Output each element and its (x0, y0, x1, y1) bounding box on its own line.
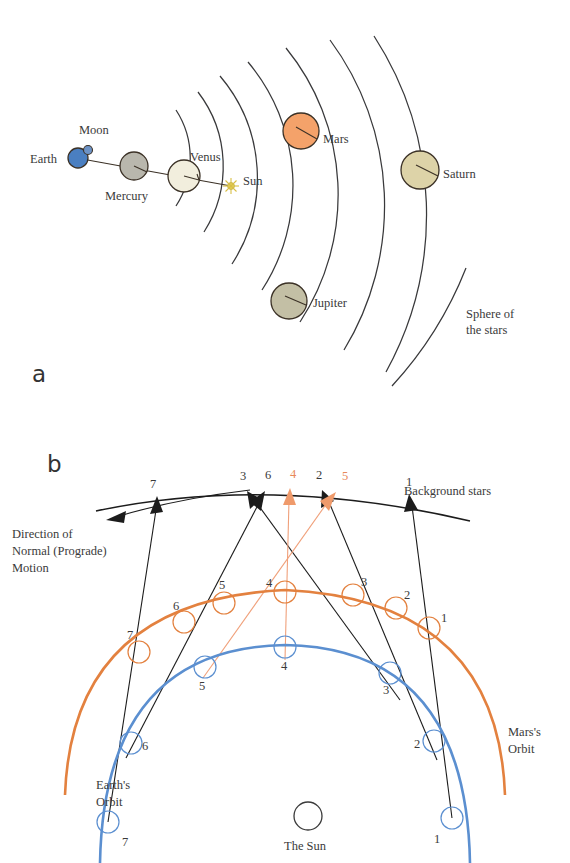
sky-mark-2: 2 (316, 468, 322, 482)
label-saturn: Saturn (443, 167, 476, 181)
label-jupiter: Jupiter (313, 296, 348, 310)
mars-orbit-arc (65, 590, 505, 795)
panel-letter-a: a (32, 361, 46, 387)
earth-orbit-arc (100, 645, 470, 863)
sky-marks-group: 7 3 6 4 2 5 1 (150, 467, 412, 491)
sightline-7 (108, 496, 163, 822)
direction-label-line3: Motion (12, 561, 50, 575)
sky-mark-7: 7 (150, 477, 156, 491)
earth-position-label-7: 7 (122, 835, 128, 849)
earth-position-label-4: 4 (281, 659, 288, 673)
label-earth: Earth (30, 152, 58, 166)
earth-position-label-2: 2 (414, 737, 420, 751)
mars-position-7 (128, 641, 150, 663)
mars-position-label-3: 3 (361, 575, 367, 589)
sightline-6 (126, 491, 265, 758)
panel-a: Venus Mercury Earth Moon Sun Mars Jupit (30, 36, 515, 387)
label-sphere-of-stars-line1: Sphere of (466, 307, 515, 321)
orbit-arc-saturn (374, 36, 427, 372)
sky-mark-6: 6 (265, 468, 271, 482)
body-jupiter (271, 283, 307, 319)
sightlines-group (108, 488, 452, 822)
sightline-4 (283, 488, 296, 660)
mars-position-label-1: 1 (441, 611, 447, 625)
direction-label-line2: Normal (Prograde) (12, 544, 107, 558)
earth-position-label-1: 1 (434, 832, 440, 846)
mars-orbit-label-line2: Orbit (508, 742, 535, 756)
label-sun: Sun (243, 174, 263, 188)
sun-circle-panel-b (294, 802, 322, 830)
panel-letter-b: b (47, 451, 62, 477)
earth-positions-group: 1 2 3 4 5 6 7 (97, 636, 463, 849)
mars-position-4 (274, 581, 296, 603)
mars-position-label-4: 4 (266, 576, 273, 590)
label-venus: Venus (190, 150, 221, 164)
body-saturn (401, 151, 439, 189)
orbit-arc-sphere-of-stars (392, 268, 466, 386)
earth-orbit-label-line1: Earth's (96, 778, 130, 792)
astronomy-figure: Venus Mercury Earth Moon Sun Mars Jupit (0, 0, 570, 863)
sightline-1 (404, 494, 452, 818)
orbit-arc-venus (220, 76, 257, 264)
earth-orbit-label-line2: Orbit (96, 795, 123, 809)
body-mars (283, 113, 319, 149)
label-mars: Mars (323, 132, 349, 146)
earth-position-label-5: 5 (199, 679, 205, 693)
mars-position-label-6: 6 (173, 599, 179, 613)
earth-position-label-3: 3 (383, 683, 389, 697)
orbit-arcs-group (176, 36, 466, 386)
mars-position-label-2: 2 (404, 588, 410, 602)
panel-b: b Direction of Normal (Prograde) Motion … (12, 451, 541, 863)
mars-position-label-7: 7 (127, 628, 133, 642)
mars-position-6 (173, 611, 195, 633)
sky-mark-4: 4 (290, 467, 297, 481)
label-the-sun: The Sun (284, 839, 327, 853)
sky-mark-5: 5 (342, 469, 348, 483)
sky-mark-3: 3 (240, 469, 246, 483)
label-background-stars: Background stars (404, 484, 491, 498)
body-sun (223, 178, 239, 194)
mars-position-label-5: 5 (219, 578, 225, 592)
earth-position-label-6: 6 (142, 739, 148, 753)
label-moon: Moon (79, 123, 110, 137)
sky-mark-1: 1 (406, 475, 412, 489)
sightline-3 (247, 491, 400, 700)
label-sphere-of-stars-line2: the stars (466, 323, 507, 337)
orbit-arc-mars (286, 48, 338, 322)
direction-label-line1: Direction of (12, 527, 74, 541)
body-moon (84, 146, 93, 155)
mars-orbit-label-line1: Mars's (508, 725, 541, 739)
label-mercury: Mercury (105, 189, 149, 203)
mars-position-5 (213, 592, 235, 614)
